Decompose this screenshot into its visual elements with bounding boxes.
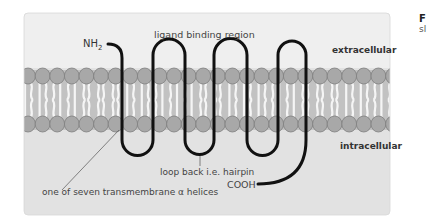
side-caption-text: sl — [419, 24, 426, 34]
loop-back-label: loop back i.e. hairpin — [160, 167, 254, 177]
helices-label: one of seven transmembrane α helices — [42, 187, 219, 197]
side-caption-title: F — [419, 13, 426, 24]
gpcr-membrane-diagram: NH2 ligand binding region extracellular … — [0, 0, 438, 221]
extracellular-label: extracellular — [332, 45, 397, 55]
extracellular-region — [24, 13, 390, 68]
ligand-binding-label: ligand binding region — [154, 29, 255, 40]
intracellular-label: intracellular — [340, 141, 402, 151]
diagram-panel — [21, 13, 401, 215]
c-terminus-label: COOH — [227, 179, 256, 190]
